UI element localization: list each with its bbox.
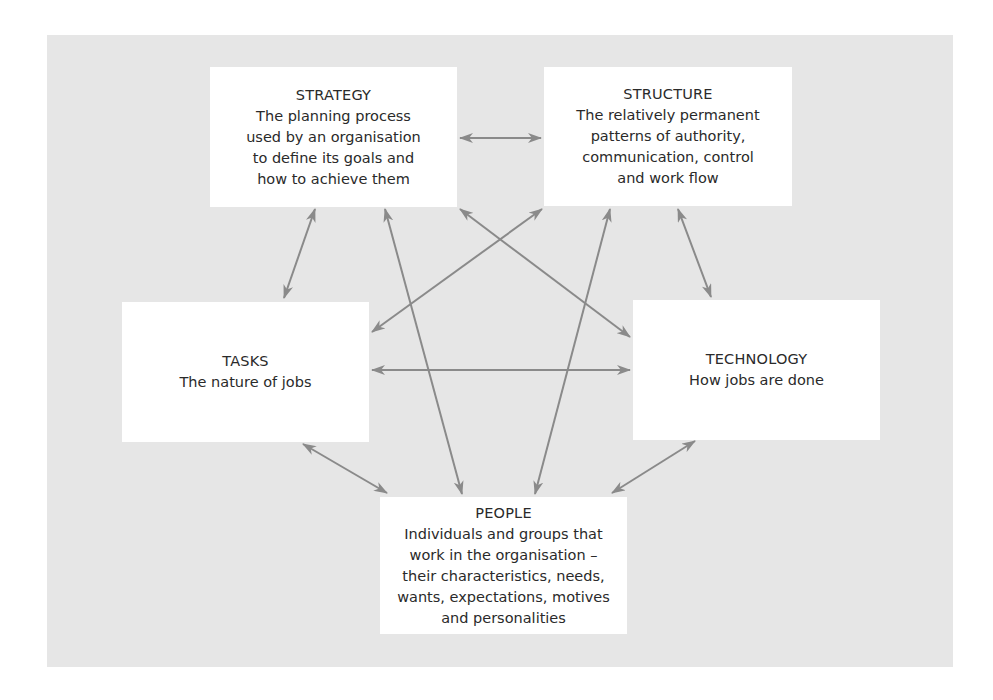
node-title: STRATEGY: [296, 85, 371, 106]
node-description-line: The planning process: [246, 106, 421, 127]
node-description-line: and work flow: [576, 168, 759, 189]
node-description: The relatively permanent patterns of aut…: [576, 105, 759, 189]
arrow-technology-people: [612, 441, 695, 493]
node-description-line: communication, control: [576, 147, 759, 168]
node-description: The planning process used by an organisa…: [246, 106, 421, 190]
node-title: TECHNOLOGY: [706, 349, 808, 370]
node-description-line: and personalities: [397, 608, 610, 629]
node-description: How jobs are done: [689, 370, 824, 391]
node-strategy: STRATEGY The planning process used by an…: [210, 67, 457, 207]
node-description-line: wants, expectations, motives: [397, 587, 610, 608]
arrow-strategy-people: [385, 209, 462, 494]
arrow-structure-technology: [678, 209, 711, 297]
node-description-line: how to achieve them: [246, 169, 421, 190]
node-description-line: to define its goals and: [246, 148, 421, 169]
node-description-line: used by an organisation: [246, 127, 421, 148]
arrow-structure-tasks: [372, 209, 542, 332]
node-title: PEOPLE: [475, 503, 532, 524]
arrow-tasks-people: [303, 444, 387, 493]
arrow-structure-people: [535, 209, 610, 494]
arrow-strategy-tasks: [284, 209, 315, 298]
node-description-line: Individuals and groups that: [397, 524, 610, 545]
node-people: PEOPLE Individuals and groups that work …: [380, 497, 627, 634]
node-description-line: work in the organisation –: [397, 545, 610, 566]
node-tasks: TASKS The nature of jobs: [122, 302, 369, 442]
node-description-line: The nature of jobs: [180, 372, 312, 393]
node-description-line: The relatively permanent: [576, 105, 759, 126]
node-description-line: their characteristics, needs,: [397, 566, 610, 587]
node-title: TASKS: [222, 351, 269, 372]
node-structure: STRUCTURE The relatively permanent patte…: [544, 67, 792, 206]
node-description: Individuals and groups that work in the …: [397, 524, 610, 629]
node-description-line: patterns of authority,: [576, 126, 759, 147]
node-title: STRUCTURE: [623, 84, 712, 105]
node-technology: TECHNOLOGY How jobs are done: [633, 300, 880, 440]
node-description-line: How jobs are done: [689, 370, 824, 391]
node-description: The nature of jobs: [180, 372, 312, 393]
